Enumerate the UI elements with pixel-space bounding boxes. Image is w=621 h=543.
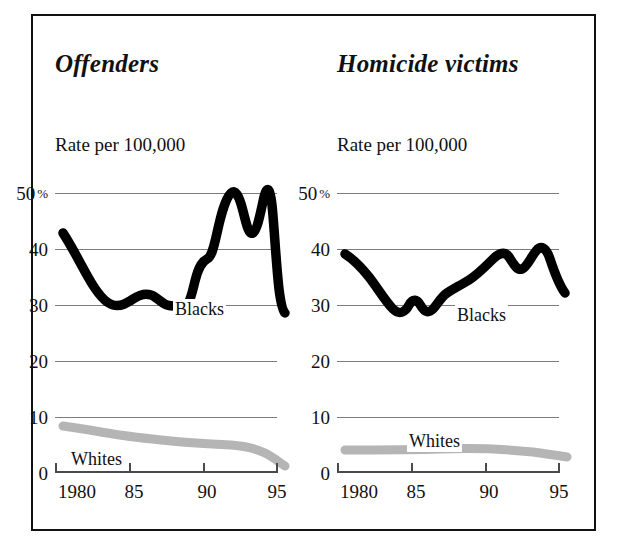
series-label-whites-victims: Whites: [407, 431, 462, 452]
x-label-95-right: 95: [550, 481, 569, 503]
page-title-offenders: Offenders: [55, 50, 159, 78]
y-tick-30-right: 30: [311, 296, 330, 315]
x-axis-line-right: [337, 471, 559, 473]
chart-frame: Offenders Rate per 100,000 50% 40 30 20 …: [31, 14, 596, 531]
plot-area-victims: 50% 40 30 20 10 0 Blacks Whites 1980 85: [337, 193, 577, 473]
x-label-85-left: 85: [125, 481, 144, 503]
panel-offenders: Offenders Rate per 100,000 50% 40 30 20 …: [33, 16, 315, 529]
y-tick-20-right: 20: [311, 352, 330, 371]
x-label-95-left: 95: [268, 481, 287, 503]
x-tick-85-right: [411, 463, 413, 473]
x-label-90-left: 90: [198, 481, 217, 503]
series-label-blacks-victims: Blacks: [455, 305, 508, 326]
page-title-victims: Homicide victims: [337, 50, 519, 78]
y-tick-10-right: 10: [311, 408, 330, 427]
y-tick-0-right: 0: [321, 464, 331, 483]
x-tick-90-left: [203, 463, 205, 473]
x-axis-line-left: [55, 471, 277, 473]
x-tick-1980-left: [55, 463, 57, 473]
y-tick-50-left: 50%: [16, 184, 48, 203]
y-tick-20-left: 20: [29, 352, 48, 371]
y-tick-0-left: 0: [39, 464, 49, 483]
series-label-whites-offenders: Whites: [69, 449, 124, 470]
y-tick-30-left: 30: [29, 296, 48, 315]
x-tick-95-right: [558, 463, 560, 473]
x-label-1980-left: 1980: [58, 481, 96, 503]
line-blacks-offenders: [63, 189, 285, 313]
series-label-blacks-offenders: Blacks: [173, 299, 226, 320]
x-label-85-right: 85: [407, 481, 426, 503]
x-tick-85-left: [129, 463, 131, 473]
x-tick-95-left: [276, 463, 278, 473]
x-tick-90-right: [485, 463, 487, 473]
x-label-1980-right: 1980: [340, 481, 378, 503]
x-label-90-right: 90: [480, 481, 499, 503]
y-tick-10-left: 10: [29, 408, 48, 427]
y-tick-50-right: 50%: [298, 184, 330, 203]
y-tick-40-right: 40: [311, 240, 330, 259]
x-tick-1980-right: [337, 463, 339, 473]
y-tick-40-left: 40: [29, 240, 48, 259]
line-blacks-victims: [345, 248, 565, 313]
panel-homicide-victims: Homicide victims Rate per 100,000 50% 40…: [315, 16, 598, 529]
plot-area-offenders: 50% 40 30 20 10 0 Blacks Whites: [55, 193, 295, 473]
